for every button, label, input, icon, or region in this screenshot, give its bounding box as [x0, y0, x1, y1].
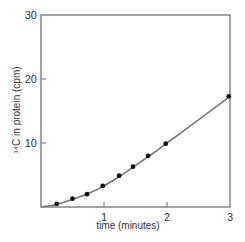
fit-line [41, 96, 230, 207]
chart: 123102030 time (minutes) ¹⁴C in protein … [0, 0, 245, 242]
data-point [146, 153, 151, 158]
data-points [54, 94, 231, 206]
data-point [163, 141, 168, 146]
data-point [70, 196, 75, 201]
data-point [117, 173, 122, 178]
data-point [54, 201, 59, 206]
plot-border [41, 15, 230, 207]
data-point [100, 183, 105, 188]
y-axis-label: ¹⁴C in protein (cpm) [11, 66, 22, 153]
axis-ticks: 123102030 [25, 9, 233, 223]
plot-frame [41, 15, 230, 207]
x-axis-label: time (minutes) [96, 220, 159, 231]
y-tick-label: 10 [25, 137, 37, 149]
y-tick-label: 30 [25, 9, 37, 21]
data-point [131, 164, 136, 169]
data-point [85, 192, 90, 197]
x-tick-label: 2 [164, 211, 170, 223]
y-tick-label: 20 [25, 73, 37, 85]
data-point [226, 94, 231, 99]
x-tick-label: 3 [227, 211, 233, 223]
fit-curve [41, 96, 230, 207]
